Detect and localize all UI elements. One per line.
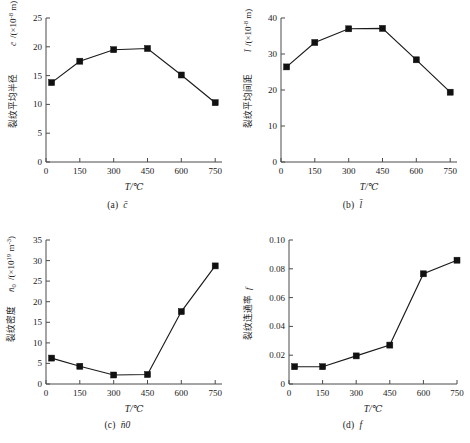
data-point [178,72,184,78]
xtick: 750 [208,166,222,176]
panel-c-yaxis-title: 裂纹密度 n̄0 /(×1019 m-3) [5,236,17,342]
panel-c-caption-symbol: n̄0 [121,420,131,430]
panel-d-yaxis-title: 裂纹连通率 f [242,286,253,340]
figure-four-panel-line-charts: 裂纹平均半径 c̄ /(×10-8 m) [0,0,470,443]
xtick: 600 [175,388,189,398]
ytick: 0.04 [269,321,285,331]
ytick: 10 [33,338,43,348]
ytick: 30 [268,49,278,59]
ytick: 40 [268,13,278,23]
ytick: 30 [33,256,43,266]
xtick: 450 [141,166,155,176]
data-point [380,25,386,31]
panel-d-xtick-labels: 0 150 300 450 600 750 [287,388,465,398]
data-point [145,372,151,378]
data-point [387,342,393,348]
ytick: 20 [33,297,43,307]
xtick: 450 [376,166,390,176]
xtick: 150 [73,166,87,176]
xtick: 750 [443,166,457,176]
panel-a-caption: (a)c̄ [0,200,235,210]
ytick: 0.06 [269,293,285,303]
panel-d-caption-symbol: f [359,420,362,430]
panel-b-series [284,25,454,95]
xtick: 0 [287,388,292,398]
panel-a-caption-symbol: c̄ [123,200,127,210]
panel-a-series [49,46,219,106]
xtick: 0 [44,166,49,176]
data-point [320,364,326,370]
data-point [346,26,352,32]
panel-a-plot: 裂纹平均半径 c̄ /(×10-8 m) [0,0,235,200]
panel-a-axes [46,18,222,162]
panel-d-ylabel-cjk: 裂纹连通率 [242,295,253,340]
xtick: 150 [73,388,87,398]
ytick: 5 [38,128,43,138]
panel-c-series [49,263,219,378]
panel-a-xaxis-title: T/℃ [125,182,144,192]
ytick: 0 [38,379,43,389]
panel-a-xtick-labels: 0 150 300 450 600 750 [44,166,223,176]
panel-b: 裂纹平均间距 l̄ /(×10-8 m) 0 10 [235,0,470,222]
data-point [49,355,55,361]
ytick: 10 [268,121,278,131]
panel-b-plot: 裂纹平均间距 l̄ /(×10-8 m) 0 10 [235,0,470,200]
panel-c-ylabel-unit: /(×1019 m-3) [5,236,16,280]
panel-d-series [292,257,460,370]
ytick: 10 [33,99,43,109]
data-point [284,64,290,70]
ytick: 20 [268,85,278,95]
data-point [77,58,83,64]
panel-d-ytick-labels: 0 0.02 0.04 0.06 0.08 0.10 [269,235,285,389]
xtick: 0 [44,388,49,398]
panel-a-ylabel-symbol: c̄ [8,41,18,46]
panel-a-ylabel-cjk: 裂纹平均半径 [7,74,18,128]
xtick: 600 [417,388,431,398]
panel-b-ylabel-cjk: 裂纹平均间距 [242,74,253,128]
ytick: 20 [33,42,43,52]
panel-a-caption-index: (a) [107,200,118,210]
panel-c: 裂纹密度 n̄0 /(×1019 m-3) [0,222,235,443]
ytick: 15 [33,317,43,327]
data-point [77,363,83,369]
data-point [111,372,117,378]
panel-b-ytick-labels: 0 10 20 30 40 [268,13,278,167]
panel-d: 裂纹连通率 f 0 0.02 0.04 [235,222,470,443]
panel-d-axes [289,240,457,384]
xtick: 150 [308,166,322,176]
data-point [145,46,151,52]
xtick: 600 [410,166,424,176]
xtick: 300 [107,166,121,176]
panel-b-ylabel-symbol: l̄ [243,48,253,52]
ytick: 0.08 [269,264,285,274]
ytick: 25 [33,276,43,286]
ytick: 0.02 [269,350,285,360]
xtick: 600 [175,166,189,176]
panel-a: 裂纹平均半径 c̄ /(×10-8 m) [0,0,235,222]
panel-c-caption-index: (c) [104,420,115,430]
xtick: 750 [450,388,464,398]
panel-b-caption: (b)l̄ [235,200,470,210]
panel-d-plot: 裂纹连通率 f 0 0.02 0.04 [235,222,470,422]
data-point [447,89,453,95]
panel-c-xtick-labels: 0 150 300 450 600 750 [44,388,223,398]
ytick: 35 [33,235,43,245]
xtick: 450 [383,388,397,398]
panel-a-ylabel-unit: /(×10-8 m) [7,1,18,38]
data-point [292,364,298,370]
panel-b-caption-index: (b) [343,200,355,210]
xtick: 300 [107,388,121,398]
data-point [413,57,419,63]
xtick: 750 [208,388,222,398]
data-point [312,40,318,46]
panel-c-axes [46,240,222,384]
panel-d-caption: (d)f [235,420,470,430]
panel-d-ylabel-symbol: f [243,286,253,290]
xtick: 0 [279,166,284,176]
ytick: 0 [38,157,43,167]
panel-d-caption-index: (d) [343,420,355,430]
data-point [178,309,184,315]
ytick: 15 [33,71,43,81]
data-point [212,100,218,106]
panel-a-ytick-labels: 0 5 10 15 20 25 [33,13,43,167]
